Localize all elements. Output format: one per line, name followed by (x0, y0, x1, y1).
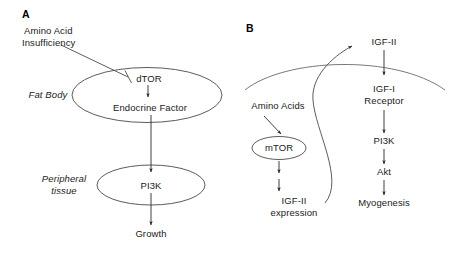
label-endocrine-factor: Endocrine Factor (113, 102, 187, 113)
inhibition-line-amino-acid-to-dtor (61, 45, 128, 77)
label-akt: Akt (377, 166, 391, 177)
label-pi3k-panel-b: PI3K (374, 135, 395, 146)
label-igf-ii: IGF-II (372, 36, 397, 47)
label-igf-i-receptor-line2: Receptor (364, 95, 403, 106)
label-amino-acid-insufficiency-line1: Amino Acid (24, 25, 73, 36)
label-dtor: dTOR (136, 73, 162, 84)
label-peripheral-tissue-line1: Peripheral (42, 173, 86, 184)
arrow-amino-acids-to-mtor (264, 116, 281, 134)
figure-canvas: A Amino Acid Insufficiency Fat Body dTOR… (0, 0, 463, 257)
label-igf-i-receptor-line1: IGF-I (373, 83, 395, 94)
label-amino-acid-insufficiency-line2: Insufficiency (22, 37, 75, 48)
label-fat-body: Fat Body (29, 89, 68, 100)
cell-membrane-arc (245, 64, 445, 90)
label-pi3k-panel-a: PI3K (141, 180, 162, 191)
label-amino-acids: Amino Acids (251, 100, 304, 111)
panel-letter-a: A (22, 8, 30, 20)
label-myogenesis: Myogenesis (358, 197, 410, 208)
label-igf-ii-expression-line1: IGF-II (282, 195, 307, 206)
label-mtor: mTOR (265, 142, 293, 153)
label-growth: Growth (135, 228, 166, 239)
label-peripheral-tissue-line2: tissue (51, 185, 76, 196)
inhibition-bar-icon (125, 71, 132, 84)
curved-secretion-path-igf2 (313, 46, 352, 203)
panel-letter-b: B (246, 22, 254, 34)
label-igf-ii-expression-line2: expression (271, 207, 318, 218)
